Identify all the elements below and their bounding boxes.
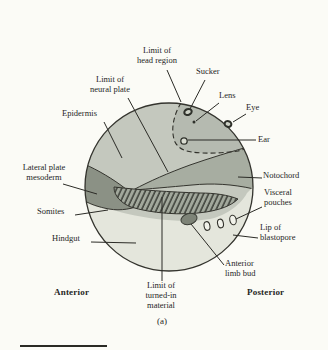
pointer-sucker <box>190 80 205 109</box>
label-ear: Ear <box>258 135 270 145</box>
eye-marker <box>224 120 232 127</box>
pointer-eye <box>233 114 246 122</box>
label-visceral-pouches: Visceral pouches <box>264 188 292 208</box>
figure-panel: Limit of head region Sucker Limit of neu… <box>0 0 328 350</box>
label-anterior-axis: Anterior <box>54 287 89 297</box>
label-hindgut: Hindgut <box>52 234 80 244</box>
label-notochord: Notochord <box>263 171 299 181</box>
lens-marker <box>193 121 196 124</box>
panel-letter: (a) <box>157 316 167 326</box>
label-epidermis: Epidermis <box>62 109 97 119</box>
label-lip-of-blastopore: Lip of blastopore <box>260 223 295 243</box>
label-somites: Somites <box>37 207 64 217</box>
label-sucker: Sucker <box>196 67 220 77</box>
label-lateral-plate: Lateral plate mesoderm <box>23 163 66 183</box>
label-lens: Lens <box>219 91 236 101</box>
label-turned-in-limit: Limit of turned-in material <box>145 281 176 310</box>
label-eye: Eye <box>246 103 259 113</box>
label-posterior-axis: Posterior <box>247 287 284 297</box>
label-head-limit: Limit of head region <box>137 46 177 66</box>
label-neural-limit: Limit of neural plate <box>90 75 130 95</box>
ear-marker <box>181 138 187 144</box>
label-limb-bud: Anterior limb bud <box>225 259 255 279</box>
pointer-head-limit <box>167 70 181 102</box>
